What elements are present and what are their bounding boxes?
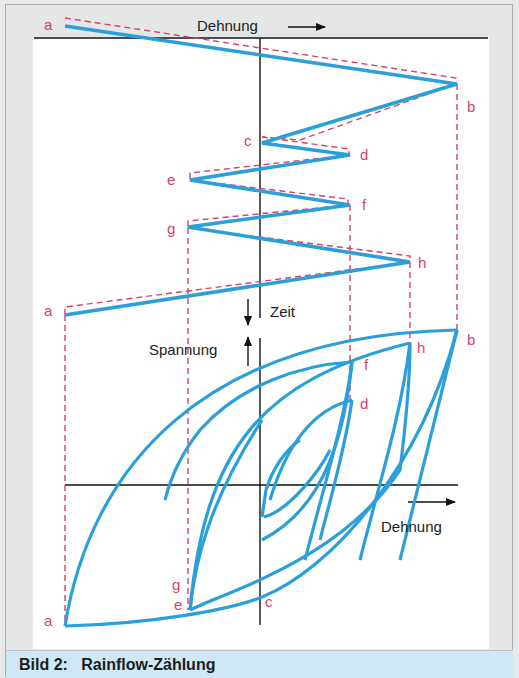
point-label-a-mid: a bbox=[44, 302, 53, 319]
point-label-e-hys: e bbox=[174, 596, 182, 613]
axis-label-zeit: Zeit bbox=[270, 303, 296, 320]
axis-label-spannung: Spannung bbox=[149, 341, 217, 358]
point-label-c-hys: c bbox=[265, 593, 273, 610]
point-label-a-top: a bbox=[44, 16, 53, 33]
point-label-g-hys: g bbox=[172, 576, 180, 593]
point-label-g-top: g bbox=[167, 220, 175, 237]
axis-label-dehnung-top: Dehnung bbox=[197, 17, 258, 34]
axis-label-dehnung-bottom: Dehnung bbox=[381, 518, 442, 535]
strain-time-history bbox=[65, 26, 457, 315]
point-label-e-top: e bbox=[167, 171, 175, 188]
point-label-b-top: b bbox=[467, 98, 475, 115]
point-label-f-top: f bbox=[362, 196, 367, 213]
hysteresis-loops bbox=[65, 330, 457, 626]
point-label-c-top: c bbox=[244, 132, 252, 149]
figure-caption: Bild 2: Rainflow-Zählung bbox=[6, 650, 513, 678]
caption-text: Bild 2: Rainflow-Zählung bbox=[19, 656, 215, 674]
point-label-d-hys: d bbox=[360, 395, 368, 412]
point-label-b-hys: b bbox=[467, 331, 475, 348]
point-label-d-top: d bbox=[360, 146, 368, 163]
point-label-f-hys: f bbox=[364, 356, 369, 373]
point-label-a-hys: a bbox=[44, 612, 53, 629]
point-label-h-top: h bbox=[418, 254, 426, 271]
point-label-h-hys: h bbox=[417, 339, 425, 356]
